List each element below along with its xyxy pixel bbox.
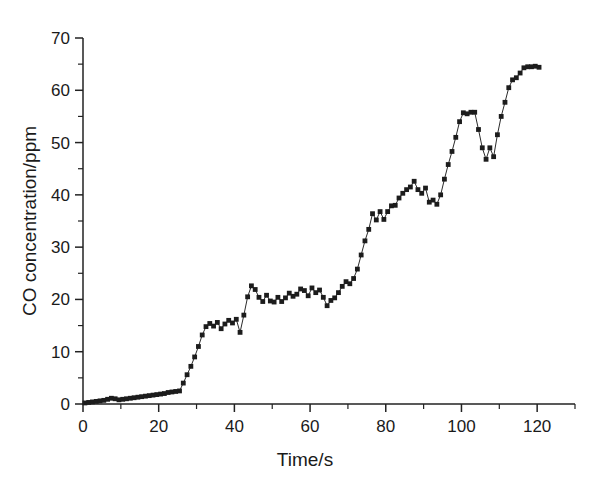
data-point (264, 293, 269, 298)
data-point (355, 267, 360, 272)
x-axis-tick-labels: 020406080100120 (78, 417, 551, 436)
data-point (457, 119, 462, 124)
x-tick-label: 0 (78, 417, 87, 436)
y-tick-label: 10 (51, 343, 70, 362)
data-point (310, 286, 315, 291)
data-point (260, 299, 265, 304)
y-tick-label: 0 (61, 395, 70, 414)
x-tick-label: 100 (447, 417, 475, 436)
data-point (397, 196, 402, 201)
data-point (294, 292, 299, 297)
y-tick-label: 70 (51, 29, 70, 48)
data-point (438, 192, 443, 197)
data-point (503, 100, 508, 105)
data-point (378, 209, 383, 214)
data-point (302, 288, 307, 293)
data-point (537, 65, 542, 70)
data-point (514, 75, 519, 80)
data-point (181, 381, 186, 386)
data-point (347, 281, 352, 286)
axes: 010203040506070 020406080100120 (51, 29, 575, 436)
data-point (340, 284, 345, 289)
x-tick-label: 20 (149, 417, 168, 436)
data-point (446, 162, 451, 167)
co-concentration-chart: 010203040506070 020406080100120 Time/s C… (0, 0, 611, 486)
y-tick-label: 60 (51, 81, 70, 100)
data-point (434, 202, 439, 207)
y-axis-ticks (75, 38, 83, 404)
x-tick-label: 80 (376, 417, 395, 436)
x-axis-ticks (83, 404, 575, 412)
x-axis-title: Time/s (277, 449, 333, 470)
data-point (450, 149, 455, 154)
data-point (480, 145, 485, 150)
data-point (306, 293, 311, 298)
data-point (188, 364, 193, 369)
x-tick-label: 60 (301, 417, 320, 436)
data-point (253, 287, 258, 292)
data-point (506, 85, 511, 90)
y-tick-label: 30 (51, 238, 70, 257)
data-point (381, 217, 386, 222)
data-point (370, 211, 375, 216)
data-point (495, 132, 500, 137)
data-point (363, 238, 368, 243)
y-axis-title: CO concentration/ppm (19, 126, 40, 316)
data-point (499, 114, 504, 119)
data-point (351, 276, 356, 281)
data-point (476, 127, 481, 132)
data-point (196, 344, 201, 349)
data-point (215, 320, 220, 325)
data-point (423, 186, 428, 191)
data-point (472, 110, 477, 115)
data-point (431, 198, 436, 203)
data-point (219, 326, 224, 331)
data-point (366, 227, 371, 232)
data-point (238, 330, 243, 335)
data-point (442, 177, 447, 182)
data-point (393, 203, 398, 208)
data-point (491, 154, 496, 159)
y-tick-label: 20 (51, 290, 70, 309)
data-point (453, 135, 458, 140)
data-point (408, 185, 413, 190)
data-point (192, 355, 197, 360)
data-point (336, 290, 341, 295)
data-point (321, 295, 326, 300)
data-series (82, 64, 541, 406)
x-tick-label: 40 (225, 417, 244, 436)
y-tick-label: 40 (51, 186, 70, 205)
y-tick-label: 50 (51, 134, 70, 153)
data-point (272, 300, 277, 305)
data-point (325, 303, 330, 308)
x-tick-label: 120 (523, 417, 551, 436)
y-axis-tick-labels: 010203040506070 (51, 29, 70, 414)
data-point (200, 333, 205, 338)
data-point (185, 372, 190, 377)
data-point (234, 317, 239, 322)
data-point (484, 157, 489, 162)
data-point (177, 389, 182, 394)
data-point (374, 218, 379, 223)
data-point (257, 295, 262, 300)
data-point (412, 179, 417, 184)
data-point (332, 295, 337, 300)
data-point (518, 71, 523, 76)
data-point (276, 295, 281, 300)
data-point (317, 288, 322, 293)
data-point (487, 145, 492, 150)
series-markers (82, 64, 541, 406)
chart-canvas: 010203040506070 020406080100120 Time/s C… (0, 0, 611, 486)
data-point (385, 209, 390, 214)
series-line (85, 66, 539, 403)
data-point (359, 253, 364, 258)
data-point (241, 313, 246, 318)
data-point (419, 191, 424, 196)
data-point (245, 294, 250, 299)
data-point (283, 295, 288, 300)
